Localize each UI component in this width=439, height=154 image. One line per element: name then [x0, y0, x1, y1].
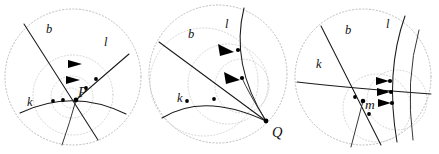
- label-curve-b: b: [188, 27, 194, 41]
- guide-circle-middle: [188, 44, 268, 124]
- arrow-head-middle: [377, 88, 390, 96]
- arrow-head-lower: [224, 72, 240, 84]
- geodesic-b: [159, 42, 266, 121]
- geodesic-branch-down: [62, 100, 76, 145]
- guide-circle-outer: [33, 55, 113, 135]
- arrow-head-bottom: [378, 99, 391, 107]
- dot-on-k-2: [61, 98, 65, 102]
- arrow-head-upper: [68, 60, 82, 68]
- panel-right: b l k m: [293, 0, 439, 154]
- label-point-m: m: [365, 97, 375, 112]
- arrow-head-upper: [218, 44, 234, 56]
- dot-on-l-2: [240, 76, 244, 80]
- label-curve-l: l: [386, 17, 390, 31]
- arrow-head-top: [376, 77, 389, 85]
- label-point-P: P: [77, 84, 87, 100]
- dot-on-k-1: [51, 99, 55, 103]
- label-curve-b: b: [345, 23, 351, 37]
- label-curve-l: l: [104, 35, 108, 49]
- guide-circle-inner: [215, 59, 269, 113]
- dot-on-l-1: [236, 48, 240, 52]
- panel-left: b l k P: [0, 0, 146, 154]
- boundary-circle: [5, 9, 141, 145]
- geodesic-branch-down-left: [351, 101, 363, 147]
- label-curve-k: k: [27, 95, 33, 109]
- label-curve-k: k: [316, 57, 322, 71]
- dot-on-k-1: [185, 99, 189, 103]
- label-curve-k: k: [177, 91, 183, 105]
- dot-point-Q: [264, 119, 269, 124]
- dot-on-k-1: [353, 95, 357, 99]
- geodesic-l: [393, 16, 406, 142]
- dot-on-branch: [367, 112, 371, 116]
- panel-middle: b l k Q: [146, 0, 293, 154]
- geodesic-extra-right: [410, 30, 419, 140]
- dot-on-l-2: [94, 77, 98, 81]
- arrow-head-lower: [66, 76, 80, 84]
- label-curve-l: l: [225, 17, 229, 31]
- dot-on-k-2: [212, 97, 216, 101]
- figure-root: b l k P b l k Q: [0, 0, 439, 154]
- label-curve-b: b: [46, 22, 52, 36]
- label-point-Q: Q: [272, 124, 283, 140]
- geodesic-k: [162, 106, 266, 121]
